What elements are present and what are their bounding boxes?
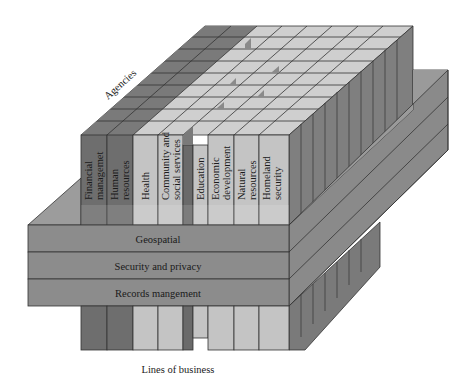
label-health: Health [140, 171, 151, 200]
label-education: Education [195, 157, 206, 200]
label-hr-l1: Human [109, 168, 120, 200]
cross-cutting-layers-front: Geospatial Security and privacy Records … [28, 225, 289, 306]
label-homeland-l1: Homeland [261, 156, 272, 200]
lines-of-business-axis-label: Lines of business [142, 364, 215, 375]
label-natural-l1: Natural [236, 168, 247, 200]
label-economic-l2: development [221, 146, 232, 200]
lower-columns-front [81, 306, 289, 350]
label-community-l2: social services [171, 139, 182, 200]
label-natural-l2: resources [247, 160, 258, 200]
label-community-l1: Community and [160, 131, 171, 200]
label-economic-l1: Economic [210, 157, 221, 200]
layer-label-geospatial: Geospatial [136, 234, 181, 245]
enterprise-architecture-cube-diagram: Financial managemet Human resources Heal… [0, 0, 472, 379]
layer-label-records: Records mangement [115, 288, 201, 299]
label-hr-l2: resources [120, 160, 131, 200]
label-financial-l2: managemet [94, 152, 105, 200]
label-homeland-l2: security [272, 166, 283, 200]
layer-label-security: Security and privacy [115, 261, 203, 272]
label-financial-l1: Financial [83, 161, 94, 200]
